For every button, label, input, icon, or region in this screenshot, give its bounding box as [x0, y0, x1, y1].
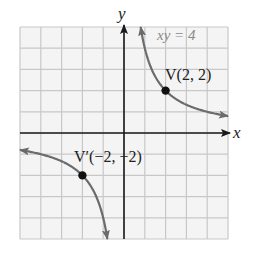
vertex-prime-label: V′(−2, −2) — [74, 148, 142, 166]
hyperbola-chart: y x xy = 4 V(2, 2) V′(−2, −2) — [0, 0, 253, 254]
y-axis-label: y — [116, 4, 126, 23]
equation-label: xy = 4 — [156, 27, 196, 43]
vertex-label: V(2, 2) — [165, 66, 211, 84]
x-axis-label: x — [232, 123, 241, 142]
vertex-prime-point — [78, 171, 86, 179]
vertex-point — [161, 86, 169, 94]
